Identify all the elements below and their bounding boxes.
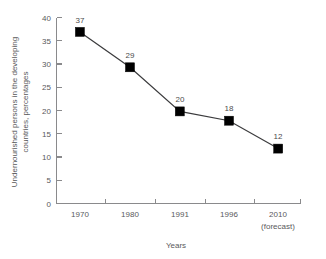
data-point-2010[interactable] [274,144,283,153]
data-value-labels: 37 29 20 18 12 [76,16,283,141]
data-label-1991: 20 [176,95,185,104]
data-label-2010: 12 [274,132,283,141]
y-tick-label-35: 35 [42,37,51,46]
line-chart: Undernourished persons in the developing… [0,0,326,259]
x-axis-ticks [106,199,255,204]
y-tick-label-5: 5 [47,176,52,185]
y-tick-label-0: 0 [47,200,52,209]
data-point-1996[interactable] [225,116,234,125]
x-tick-label-1996: 1996 [220,210,238,219]
y-axis-ticks [57,18,62,181]
x-tick-label-1970: 1970 [71,210,89,219]
y-tick-label-40: 40 [42,14,51,23]
y-axis-label-line-2: countries, percentages [21,72,30,153]
data-point-1991[interactable] [175,107,184,116]
y-tick-label-15: 15 [42,130,51,139]
data-point-1980[interactable] [126,63,135,72]
y-axis-label: Undernourished persons in the developing… [10,37,30,187]
data-label-1980: 29 [126,51,135,60]
y-tick-label-20: 20 [42,107,51,116]
x-tick-sublabel-forecast: (forecast) [261,222,295,231]
data-label-1996: 18 [225,104,234,113]
x-tick-label-1991: 1991 [171,210,189,219]
series-line-undernourished [80,32,278,149]
data-point-1970[interactable] [75,27,84,36]
series-markers [75,27,282,153]
x-tick-label-2010: 2010 [269,210,287,219]
y-tick-label-25: 25 [42,83,51,92]
y-tick-label-10: 10 [42,153,51,162]
data-label-1970: 37 [76,16,85,25]
chart-container: Undernourished persons in the developing… [0,0,326,259]
x-tick-label-1980: 1980 [121,210,139,219]
y-axis-tick-labels: 40 35 30 25 20 15 10 5 0 [42,14,51,209]
y-tick-label-30: 30 [42,60,51,69]
x-axis-title: Years [166,241,186,250]
y-axis-label-line-1: Undernourished persons in the developing [10,37,19,187]
x-axis-tick-labels: 1970 1980 1991 1996 2010 (forecast) [71,210,295,231]
